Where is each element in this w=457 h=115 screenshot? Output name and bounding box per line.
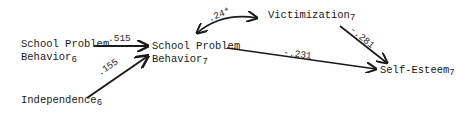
node-school-problem-behavior-6: School Problem Behavior6 <box>21 38 109 65</box>
coef-spb6-spb7: .515 <box>108 34 131 44</box>
node-label-text: Self-Esteem <box>380 64 449 76</box>
node-victimization-7: Victimization7 <box>268 9 355 23</box>
node-label-text: Behavior <box>152 53 202 65</box>
node-label-line2: Behavior6 <box>21 51 109 65</box>
node-label-text: Victimization <box>268 9 350 21</box>
node-subscript: 7 <box>350 13 355 23</box>
node-label-text: Behavior <box>21 51 71 63</box>
node-label-line1: School Problem <box>152 40 240 53</box>
node-school-problem-behavior-7: School Problem Behavior7 <box>152 40 240 67</box>
node-subscript: 7 <box>449 68 454 78</box>
node-label-line2: Behavior7 <box>152 53 240 67</box>
node-subscript: 7 <box>202 57 207 67</box>
node-label-line1: School Problem <box>21 38 109 51</box>
node-independence-6: Independence6 <box>21 94 102 108</box>
node-subscript: 6 <box>97 98 102 108</box>
node-subscript: 6 <box>71 55 76 65</box>
node-label-text: Independence <box>21 94 97 106</box>
node-self-esteem-7: Self-Esteem7 <box>380 64 455 78</box>
arrow-spb7-victimization7-correlation <box>197 17 257 33</box>
